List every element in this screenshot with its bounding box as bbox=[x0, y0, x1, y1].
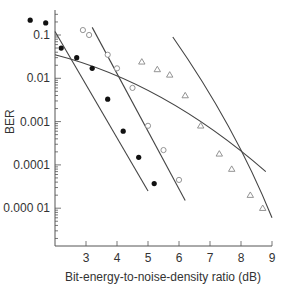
x-tick-label: 4 bbox=[114, 251, 121, 265]
y-tick-label: 0.0001 bbox=[13, 158, 50, 172]
open-circle-marker bbox=[87, 32, 92, 37]
filled-circle-marker bbox=[136, 155, 141, 160]
filled-circle-marker bbox=[59, 45, 64, 50]
filled-circle-marker bbox=[28, 18, 33, 23]
filled-circle-marker bbox=[43, 20, 48, 25]
open-triangle-marker bbox=[260, 205, 266, 210]
y-tick-label: 0.01 bbox=[27, 71, 51, 85]
filled-circle-marker bbox=[90, 66, 95, 71]
ber-chart: 34567890.10.010.0010.00010.000 01Bit-ene… bbox=[0, 0, 285, 290]
filled-circle-marker bbox=[152, 181, 157, 186]
y-axis-title: BER bbox=[3, 109, 17, 134]
open-triangle-marker bbox=[247, 192, 253, 197]
x-tick-label: 5 bbox=[145, 251, 152, 265]
open-circle-marker bbox=[105, 52, 110, 57]
open-circle-marker bbox=[176, 177, 181, 182]
filled-circle-marker bbox=[105, 97, 110, 102]
open-circle-marker bbox=[161, 147, 166, 152]
x-tick-label: 9 bbox=[269, 251, 276, 265]
axes bbox=[55, 10, 272, 246]
open-triangle-marker bbox=[139, 59, 145, 64]
x-tick-label: 3 bbox=[83, 251, 90, 265]
open-circle-marker bbox=[114, 66, 119, 71]
x-tick-label: 7 bbox=[207, 251, 214, 265]
y-tick-label: 0.001 bbox=[20, 115, 50, 129]
x-axis-title: Bit-energy-to-noise-density ratio (dB) bbox=[65, 270, 261, 284]
filled-circle-marker bbox=[121, 129, 126, 134]
open-triangle-marker bbox=[229, 166, 235, 171]
fit-curve bbox=[173, 37, 272, 218]
open-circle-marker bbox=[80, 27, 85, 32]
fit-curve bbox=[55, 32, 148, 191]
open-triangle-marker bbox=[154, 66, 160, 71]
open-triangle-marker bbox=[167, 72, 173, 77]
y-tick-label: 0.1 bbox=[33, 28, 50, 42]
x-tick-label: 6 bbox=[176, 251, 183, 265]
fit-curves bbox=[55, 27, 272, 217]
open-circle-marker bbox=[130, 85, 135, 90]
y-tick-label: 0.000 01 bbox=[3, 201, 50, 215]
open-circle-marker bbox=[145, 123, 150, 128]
x-tick-label: 8 bbox=[238, 251, 245, 265]
open-triangle-marker bbox=[182, 92, 188, 97]
open-triangle-marker bbox=[216, 151, 222, 156]
filled-circle-marker bbox=[74, 55, 79, 60]
